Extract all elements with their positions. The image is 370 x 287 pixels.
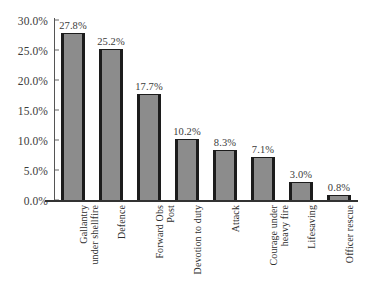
bar — [327, 195, 351, 200]
bar — [213, 150, 237, 200]
y-axis-tick-text: 10.0% — [18, 135, 48, 147]
bar-value-label: 17.7% — [127, 81, 171, 92]
y-axis-tick-text: 30.0% — [18, 15, 48, 27]
x-axis-label-line: Post — [165, 205, 176, 259]
x-axis-label: Devotion to duty — [192, 205, 203, 274]
bar-value-label: 10.2% — [165, 126, 209, 137]
bar — [61, 33, 85, 200]
bar-value-label: 25.2% — [89, 36, 133, 47]
x-axis-label: Attack — [230, 205, 241, 232]
y-axis-tick-label: 25.0% — [18, 41, 48, 59]
y-axis-tick-text: 25.0% — [18, 45, 48, 57]
y-axis-tick-labels: 30.0% 25.0% 20.0% 15.0% 10.0% 5.0% 0.0% — [0, 0, 48, 287]
x-axis-label: Forward ObsPost — [154, 205, 176, 259]
x-axis-label-line: Gallantry — [78, 205, 89, 265]
y-axis-tick-text: 20.0% — [18, 75, 48, 87]
x-axis-label-line: Lifesaving — [306, 205, 317, 249]
bar-value-label: 7.1% — [241, 144, 285, 155]
y-axis-tick-label: 15.0% — [18, 101, 48, 119]
x-axis-label: Officer rescue — [344, 205, 355, 263]
bar — [137, 94, 161, 200]
y-axis-tick-text: 5.0% — [24, 165, 48, 177]
bar — [289, 182, 313, 200]
x-axis-label-line: Courage under — [268, 205, 279, 265]
x-axis-label-line: Devotion to duty — [192, 205, 203, 274]
bar-value-label: 3.0% — [279, 169, 323, 180]
y-axis-tick-label: 30.0% — [18, 11, 48, 29]
bar — [99, 49, 123, 200]
bar-value-label: 27.8% — [51, 20, 95, 31]
bar-chart: 30.0% 25.0% 20.0% 15.0% 10.0% 5.0% 0.0% … — [0, 0, 370, 287]
y-axis-tick-label: 10.0% — [18, 131, 48, 149]
x-axis-label-line: Forward Obs — [154, 205, 165, 259]
x-axis-label-line: Attack — [230, 205, 241, 232]
x-axis-label-line: under shellfire — [89, 205, 100, 265]
x-axis-label-line: Defence — [116, 205, 127, 239]
y-axis-tick-label: 20.0% — [18, 71, 48, 89]
x-axis-label-line: heavy fire — [279, 205, 290, 265]
bar — [251, 157, 275, 200]
x-axis-label: Courage underheavy fire — [268, 205, 290, 265]
x-axis-label: Gallantryunder shellfire — [78, 205, 100, 265]
x-axis-label: Lifesaving — [306, 205, 317, 249]
x-axis-label-line: Officer rescue — [344, 205, 355, 263]
bar-value-label: 0.8% — [317, 182, 361, 193]
y-axis-tick-text: 15.0% — [18, 105, 48, 117]
bar — [175, 139, 199, 200]
y-axis-tick-label: 5.0% — [24, 161, 48, 179]
x-axis-label: Defence — [116, 205, 127, 239]
